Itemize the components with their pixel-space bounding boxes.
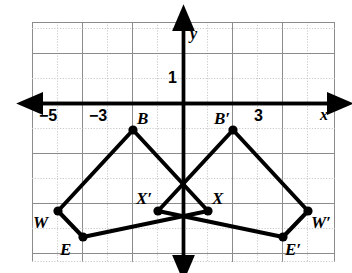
- vertex-label-E-prime: E′: [285, 241, 301, 258]
- vertex-dot-E: [78, 232, 87, 241]
- x-tick-label-neg3: −3: [89, 108, 107, 124]
- vertex-label-W-prime: W′: [311, 214, 331, 231]
- vertex-label-B-prime: B′: [214, 110, 230, 127]
- unit-label-1: 1: [168, 70, 177, 86]
- vertex-dot-W: [53, 206, 62, 215]
- vertex-label-X: X: [212, 190, 223, 207]
- x-axis-label: x: [320, 107, 328, 123]
- vertex-label-X-prime: X′: [136, 190, 152, 207]
- vertex-dot-X-prime: [153, 206, 162, 215]
- coordinate-plane-figure: B B′ W W′ E E′ X X′ −5 −3 3 1 x y: [0, 0, 352, 273]
- x-tick-label-3: 3: [254, 108, 263, 124]
- vertex-label-W: W: [33, 214, 48, 231]
- y-axis-label: y: [190, 26, 197, 42]
- vertex-label-E: E: [60, 241, 71, 258]
- vertex-label-B: B: [137, 110, 148, 127]
- plot-canvas: [0, 0, 352, 273]
- x-tick-label-neg5: −5: [39, 108, 57, 124]
